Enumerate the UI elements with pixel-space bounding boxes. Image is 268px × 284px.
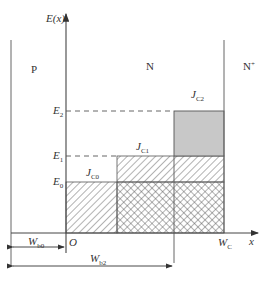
region-p-label: P [31, 63, 37, 75]
jc2-label: JC2 [191, 88, 205, 103]
x-axis-label: x [248, 235, 254, 247]
jc0-hatched-region [66, 182, 117, 233]
region-n-label: N [146, 60, 154, 72]
jc1-label: JC1 [136, 140, 150, 155]
origin-label: O [69, 236, 77, 248]
jc1-hatched-region [117, 156, 224, 182]
wb2-label: Wb2 [90, 252, 107, 267]
e0-label: E0 [52, 175, 64, 190]
region-nplus-label: N+ [243, 60, 255, 72]
jc0-label: JC0 [86, 166, 100, 181]
e2-label: E2 [52, 104, 64, 119]
e1-label: E1 [52, 149, 64, 164]
y-axis-label: E(x) [45, 12, 65, 25]
wb0-label: Wb0 [28, 235, 45, 250]
wc-label: WC [218, 236, 232, 251]
electric-field-diagram: E(x) x O P N N+ E2 E1 E0 JC0 JC1 JC2 Wb0… [0, 0, 268, 284]
jc2-gray-region [174, 111, 224, 156]
crosshatch-region [117, 182, 224, 233]
